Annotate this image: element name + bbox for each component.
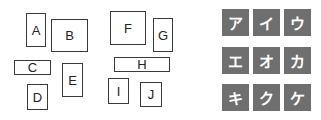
box-e: E xyxy=(62,63,83,97)
katakana-tile: キ xyxy=(222,84,249,111)
box-h: H xyxy=(114,57,170,72)
katakana-tile: ア xyxy=(222,9,249,36)
box-c: C xyxy=(14,60,51,75)
box-a: A xyxy=(26,13,46,47)
katakana-tile: カ xyxy=(284,47,311,74)
katakana-tile: オ xyxy=(253,47,280,74)
katakana-tile: エ xyxy=(222,47,249,74)
katakana-tile: ケ xyxy=(284,84,311,111)
katakana-tile: イ xyxy=(253,9,280,36)
katakana-tile: ク xyxy=(253,84,280,111)
box-d: D xyxy=(27,84,48,110)
box-j: J xyxy=(140,82,162,107)
box-i: I xyxy=(108,78,129,104)
katakana-tile: ウ xyxy=(284,9,311,36)
box-b: B xyxy=(51,19,88,52)
box-f: F xyxy=(110,11,146,45)
box-g: G xyxy=(153,18,173,52)
